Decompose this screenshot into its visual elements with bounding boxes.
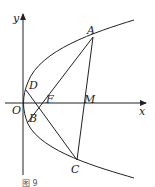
point-d-label: D	[29, 80, 38, 91]
point-c-label: C	[71, 164, 79, 175]
diagram-svg	[0, 0, 155, 187]
figure: y x O A D F M B C 图 9	[0, 0, 155, 187]
y-axis-label: y	[13, 13, 19, 24]
figure-caption: 图 9	[22, 180, 38, 187]
point-a-label: A	[87, 25, 95, 36]
point-m-label: M	[84, 94, 95, 105]
parabola	[24, 20, 135, 178]
point-f-label: F	[46, 94, 54, 105]
origin-label: O	[12, 105, 21, 116]
point-b-label: B	[29, 113, 37, 124]
x-axis-label: x	[139, 106, 145, 117]
